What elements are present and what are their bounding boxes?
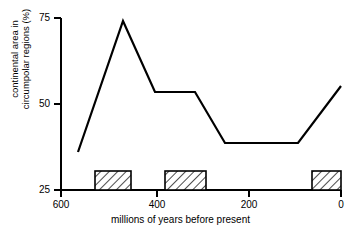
glaciation-bar xyxy=(165,171,206,190)
glaciation-bar xyxy=(312,171,341,190)
x-tick-label-400: 400 xyxy=(139,199,175,210)
chart-container: 75 50 25 600 400 200 0 millions of years… xyxy=(0,0,361,238)
x-tick-label-0: 0 xyxy=(326,199,356,210)
y-axis-title: continental area in circumpolar regions … xyxy=(9,0,31,139)
x-axis-title: millions of years before present xyxy=(0,214,361,225)
y-tick-label-50: 50 xyxy=(30,98,50,109)
glaciation-bar xyxy=(95,171,131,190)
y-tick-label-25: 25 xyxy=(30,184,50,195)
y-axis-title-line-2: circumpolar regions (%) xyxy=(20,0,31,139)
y-axis-title-line-1: continental area in xyxy=(9,20,20,98)
x-tick-label-200: 200 xyxy=(231,199,267,210)
x-tick-label-600: 600 xyxy=(43,199,79,210)
data-line-series-1 xyxy=(78,21,341,152)
y-tick-label-75: 75 xyxy=(30,12,50,23)
